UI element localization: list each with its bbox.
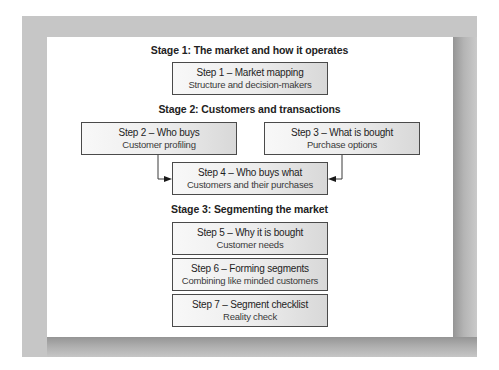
step-5-subtitle: Customer needs [173, 239, 327, 251]
step-6-box: Step 6 – Forming segments Combining like… [172, 258, 328, 291]
arrow-step3-to-step4 [328, 155, 342, 182]
step-7-title: Step 7 – Segment checklist [173, 299, 327, 311]
step-6-title: Step 6 – Forming segments [173, 263, 327, 275]
step-5-box: Step 5 – Why it is bought Customer needs [172, 222, 328, 255]
step-7-box: Step 7 – Segment checklist Reality check [172, 294, 328, 327]
arrow-step2-to-step4 [158, 155, 172, 182]
step-5-title: Step 5 – Why it is bought [173, 227, 327, 239]
stage-3-heading: Stage 3: Segmenting the market [0, 203, 499, 215]
step-6-subtitle: Combining like minded customers [173, 275, 327, 287]
step-7-subtitle: Reality check [173, 311, 327, 323]
